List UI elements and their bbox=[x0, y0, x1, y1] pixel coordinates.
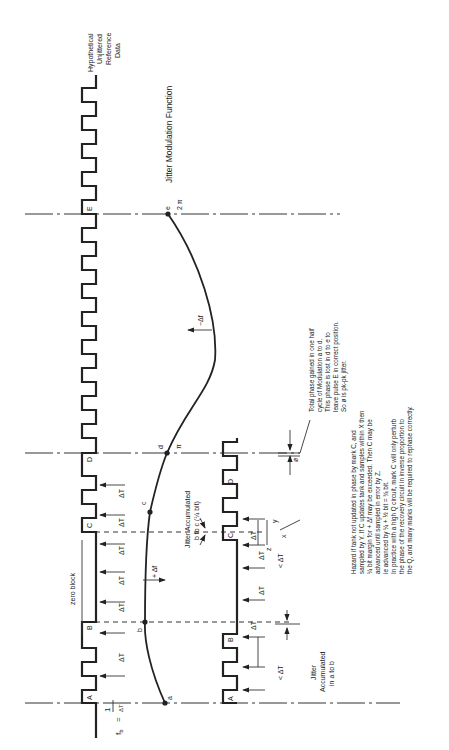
phase-pi-label: π bbox=[175, 444, 182, 449]
delta-t-label: ΔT bbox=[118, 517, 125, 527]
delta-t-label: ΔT bbox=[118, 488, 125, 498]
svg-text:This phase is lost in d to e t: This phase is lost in d to e to bbox=[324, 332, 332, 412]
sample-z-label: z bbox=[265, 547, 272, 551]
lower-delta-t-arrows bbox=[243, 519, 267, 690]
point-e bbox=[165, 211, 170, 216]
svg-text:Data: Data bbox=[114, 43, 121, 58]
less-delta-t-label: < ΔT bbox=[277, 665, 284, 680]
reference-waveform bbox=[82, 75, 96, 738]
phase-2pi-label: 2 π bbox=[176, 199, 183, 210]
svg-text:the Q, and many marks will be: the Q, and many marks will be required t… bbox=[406, 406, 414, 574]
svg-text:Hazard if tank not updated in: Hazard if tank not updated in phase by m… bbox=[350, 430, 358, 574]
less-delta-t-label: < ΔT bbox=[277, 553, 284, 568]
sample-y-label: y bbox=[271, 519, 279, 523]
svg-text:advanced until sampled i: advanced until sampled in error by Z. bbox=[374, 470, 382, 574]
mark-a-label: A bbox=[86, 695, 93, 700]
lower-mark-a: A bbox=[227, 696, 234, 701]
svg-text:ΔT: ΔT bbox=[118, 704, 124, 712]
point-a-label: a bbox=[166, 696, 173, 700]
svg-text:Accumulated: Accumulated bbox=[319, 651, 326, 692]
svg-text:Hypothetical: Hypothetical bbox=[87, 33, 95, 72]
delta-t-label: ΔT bbox=[118, 575, 125, 585]
reference-label: Hypothetical Unjittered Reference Data bbox=[87, 33, 121, 72]
point-a bbox=[162, 700, 167, 705]
plus-df-label: + Δf bbox=[151, 566, 158, 578]
total-phase-note: Total phase gained in one half cycle of … bbox=[308, 321, 348, 412]
delta-t-label: ΔT bbox=[250, 530, 257, 540]
point-d-label: d bbox=[157, 445, 164, 449]
svg-text:leave pulse E in correct posit: leave pulse E in correct position. bbox=[332, 321, 340, 412]
svg-text:Unjittered: Unjittered bbox=[96, 34, 104, 64]
point-b bbox=[142, 619, 147, 624]
svg-text:cycle of Modulation a to d.: cycle of Modulation a to d. bbox=[316, 339, 324, 412]
svg-text:Jitter: Jitter bbox=[310, 664, 317, 680]
point-e-label: e bbox=[164, 206, 171, 210]
svg-text:Jitter Accumulated: Jitter Accumulated bbox=[184, 491, 191, 548]
delta-t-label: ΔT bbox=[258, 550, 265, 560]
mark-c-label: C bbox=[86, 523, 93, 528]
svg-text:In practice with a high Q circ: In practice with a high Q circuit, mark … bbox=[390, 418, 398, 574]
point-c bbox=[147, 509, 152, 514]
svg-text:=: = bbox=[114, 717, 123, 722]
hazard-note: Hazard if tank not updated in phase by m… bbox=[350, 406, 414, 574]
jitter-bc-arrow-bottom bbox=[200, 535, 205, 545]
minus-df-label: −Δf bbox=[197, 315, 204, 326]
svg-text:b to c (¼ bit): b to c (¼ bit) bbox=[193, 501, 201, 540]
mark-d-label: D bbox=[86, 457, 93, 462]
svg-text:Reference: Reference bbox=[105, 33, 112, 65]
svg-text:Total phase gained in one half: Total phase gained in one half bbox=[308, 328, 316, 412]
svg-text:1: 1 bbox=[103, 707, 112, 712]
sample-x-label: x bbox=[280, 534, 287, 538]
mark-b-label: B bbox=[86, 625, 93, 630]
lower-mark-b: B bbox=[227, 637, 234, 642]
svg-text:fb: fb bbox=[114, 729, 124, 735]
delta-t-label: ΔT bbox=[118, 545, 125, 555]
svg-text:in a to b: in a to b bbox=[328, 661, 335, 686]
point-d bbox=[164, 450, 169, 455]
total-phase-leader bbox=[300, 420, 310, 453]
delta-t-label: ΔT bbox=[250, 620, 257, 630]
jitter-diagram: Hypothetical Unjittered Reference Data J… bbox=[0, 0, 449, 750]
delta-t-label: ΔT bbox=[118, 652, 125, 662]
jitter-modulation-curve bbox=[145, 214, 215, 703]
svg-text:So ø is pk-pk jitter.: So ø is pk-pk jitter. bbox=[340, 360, 348, 412]
diagram-title: Jitter Modulation Function bbox=[164, 85, 174, 183]
delta-t-label: ΔT bbox=[118, 602, 125, 612]
lower-mark-c: C bbox=[227, 533, 234, 538]
hazard-leader bbox=[280, 520, 300, 530]
svg-text:ie advanced by ¼ + ½ bit: ie advanced by ¼ + ½ bit = ¾ bit. bbox=[382, 481, 390, 574]
zero-block-label: zero block bbox=[69, 573, 76, 605]
svg-text:the phase of the recovery circ: the phase of the recovery circuit in inv… bbox=[398, 418, 406, 574]
delta-t-label: ΔT bbox=[258, 585, 265, 595]
jitter-b-to-c-label: Jitter Accumulated b to c (¼ bit) bbox=[184, 491, 201, 548]
mark-e-label: E bbox=[86, 206, 93, 211]
svg-text:sampled by Y. If C updates tan: sampled by Y. If C updates tank and samp… bbox=[358, 410, 366, 574]
svg-text:¼ bit margin for + Δf may be e: ¼ bit margin for + Δf may be exceeded. T… bbox=[366, 419, 374, 574]
point-b-label: b bbox=[136, 628, 143, 632]
phi-label: ø bbox=[292, 457, 299, 462]
lower-mark-d: D bbox=[227, 479, 234, 484]
jitter-a-to-b-label: Jitter Accumulated in a to b bbox=[310, 651, 335, 692]
jittered-waveform bbox=[223, 438, 237, 703]
jitter-bc-arrow-top bbox=[200, 518, 205, 528]
point-c-label: c bbox=[140, 501, 147, 505]
bit-frequency-formula: fb = 1 ΔT bbox=[103, 700, 124, 735]
